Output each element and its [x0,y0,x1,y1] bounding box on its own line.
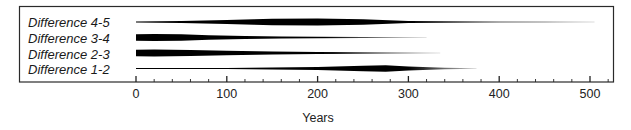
row-label-2-3: Difference 2-3 [28,47,110,62]
kite-difference-4-5 [136,19,595,26]
kite-difference-2-3 [136,50,440,57]
tick-label-400: 400 [489,87,510,101]
x-tick-labels: 0 100 200 300 400 500 [133,87,601,101]
tick-label-500: 500 [580,87,601,101]
tick-label-0: 0 [133,87,140,101]
kite-difference-3-4 [136,34,427,41]
kite-difference-1-2 [136,65,477,72]
row-label-1-2: Difference 1-2 [28,62,110,77]
x-axis [136,76,608,82]
row-labels: Difference 4-5 Difference 3-4 Difference… [28,15,110,77]
kite-chart: Difference 4-5 Difference 3-4 Difference… [0,0,631,130]
tick-label-200: 200 [307,87,328,101]
tick-label-100: 100 [216,87,237,101]
kite-series-group [136,19,595,72]
tick-label-300: 300 [398,87,419,101]
x-axis-title: Years [302,111,334,125]
row-label-3-4: Difference 3-4 [28,31,110,46]
row-label-4-5: Difference 4-5 [28,15,110,30]
